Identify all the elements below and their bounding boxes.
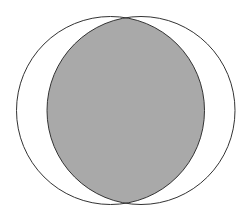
venn-diagram <box>0 0 248 220</box>
